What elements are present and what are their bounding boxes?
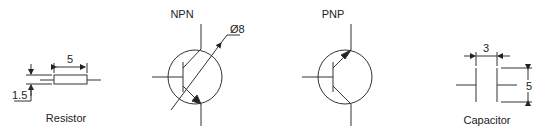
npn-diameter-dim: Ø8 [230, 23, 245, 35]
npn-label: NPN [170, 8, 193, 20]
pnp-transistor-symbol [302, 24, 372, 126]
component-symbols-diagram: 5 1.5 Resistor NPN Ø8 PNP [0, 0, 547, 134]
npn-transistor-symbol [152, 24, 240, 126]
diagram-svg: 5 1.5 Resistor NPN Ø8 PNP [0, 0, 547, 134]
capacitor-height-dim: 5 [526, 80, 532, 92]
resistor-label: Resistor [46, 112, 87, 124]
capacitor-label: Capacitor [463, 114, 510, 126]
capacitor-symbol [456, 52, 532, 102]
resistor-height-dim: 1.5 [12, 89, 27, 101]
pnp-label: PNP [322, 8, 345, 20]
capacitor-gap-dim: 3 [483, 42, 489, 54]
resistor-length-dim: 5 [67, 53, 73, 65]
